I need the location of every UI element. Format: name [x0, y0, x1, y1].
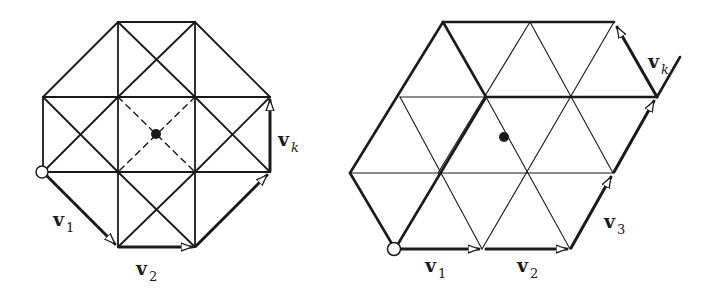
square-lattice-labels: v 1 v 2 v k [52, 128, 299, 284]
label-v2-sub: 2 [149, 269, 157, 284]
triangular-lattice-figure [350, 22, 680, 256]
vector-v3 [196, 175, 267, 246]
label-v1-base: v [52, 208, 65, 230]
triangular-lattice-labels: v 1 v 2 v 3 v k [424, 50, 669, 281]
center-dot [499, 132, 509, 142]
label-vk-sub: k [291, 140, 299, 155]
lattice-figures: v 1 v 2 v k [0, 0, 704, 293]
center-dot [151, 129, 161, 139]
label-v1-sub: 1 [66, 220, 74, 235]
label-v2-base: v [135, 257, 148, 279]
label-v1-sub: 1 [438, 266, 446, 281]
label-vk-sub: k [661, 62, 669, 77]
boundary-vectors [45, 100, 270, 247]
origin-circle [388, 243, 401, 256]
boundary-vectors [401, 27, 657, 249]
vector-v4 [614, 101, 654, 172]
label-v3-sub: 3 [617, 222, 625, 237]
label-vk-base: v [647, 50, 660, 72]
label-vk-base: v [277, 128, 290, 150]
label-v1-base: v [424, 254, 437, 276]
origin-circle [36, 166, 48, 178]
grid-lines-thin [350, 22, 614, 249]
square-lattice-figure [36, 22, 270, 247]
label-v3-base: v [603, 210, 616, 232]
label-v2-sub: 2 [530, 266, 538, 281]
label-v2-base: v [516, 254, 529, 276]
grid-lines-thick [350, 22, 680, 249]
